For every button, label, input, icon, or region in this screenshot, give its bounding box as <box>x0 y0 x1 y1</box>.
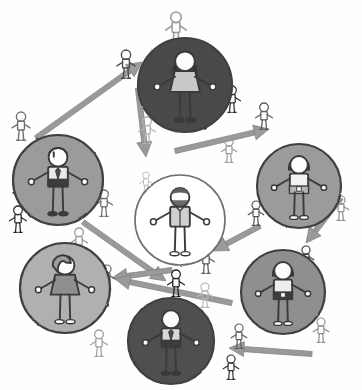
figure-leg-right <box>106 207 107 216</box>
figure-hand-right <box>305 291 310 296</box>
hub-node[interactable]: Hub D <box>257 144 341 228</box>
figure-leg-left <box>144 134 145 143</box>
figure-hand-left <box>154 84 160 90</box>
figure-head <box>274 262 292 280</box>
figure-hand-left <box>143 340 149 346</box>
figure-leg-left <box>254 217 255 225</box>
figure-leg-right <box>323 334 324 342</box>
figure-hand-right <box>82 179 88 185</box>
figure-leg-left <box>101 207 102 216</box>
figure-head <box>175 51 195 71</box>
figure-leg-left <box>60 295 61 320</box>
figure-leg-right <box>23 130 24 140</box>
figure-head <box>290 156 308 174</box>
figure-leg-right <box>287 298 288 321</box>
figure-hand-left <box>271 185 276 190</box>
figure-leg-left <box>339 212 340 220</box>
figure-hand-right <box>321 185 326 190</box>
figure-leg-right <box>149 134 150 143</box>
figure-leg-left <box>227 154 228 162</box>
figure-shoe-right <box>66 320 75 324</box>
figure-shoe-left <box>170 252 179 256</box>
figure-trouser-top <box>48 179 68 186</box>
diagram-canvas: Hub AHub BHub CHub DHub EHub FHub G Soci… <box>0 0 362 390</box>
figure-leg-right <box>70 295 71 320</box>
figure-leg-right <box>178 287 179 296</box>
figure-torso <box>170 71 200 92</box>
figure-hand-right <box>204 219 210 225</box>
figure-leg-right <box>208 264 209 273</box>
figure-hand-left <box>150 219 156 225</box>
figure-leg-right <box>175 347 176 371</box>
figure-shoe-right <box>59 212 68 216</box>
figure-leg-right <box>303 192 304 215</box>
figure-head <box>162 310 180 328</box>
figure-leg-left <box>229 103 230 112</box>
figure-leg-left <box>261 120 262 129</box>
figure-leg-right <box>343 212 344 220</box>
figure-shoe-left <box>290 215 298 219</box>
figure-shoe-right <box>172 371 181 375</box>
hub-node[interactable]: Hub C <box>135 175 225 265</box>
figure-leg-left <box>173 287 174 296</box>
figure-leg-left <box>15 223 16 232</box>
figure-shoe-left <box>175 118 184 122</box>
figure-shoe-left <box>55 320 64 324</box>
figure-hand-right <box>194 340 200 346</box>
figure-torso <box>51 275 80 295</box>
figure-shoe-right <box>284 321 292 325</box>
figure-belt-buckle <box>281 293 286 298</box>
hub-node[interactable]: Hub A <box>138 38 232 132</box>
figure-leg-left <box>180 92 181 118</box>
figure-leg-right <box>258 217 259 225</box>
hub-node[interactable]: Hub E <box>241 250 325 334</box>
figure-leg-right <box>128 68 129 78</box>
figure-leg-right <box>63 187 64 212</box>
hub-node[interactable]: Hub B <box>13 135 103 225</box>
figure-leg-left <box>18 130 19 140</box>
figure-hand-right <box>210 84 216 90</box>
figure-leg-left <box>96 347 97 356</box>
figure-leg-left <box>203 264 204 273</box>
figure-hand-left <box>28 179 34 185</box>
figure-shoe-left <box>161 371 170 375</box>
figure-hand-left <box>35 287 41 293</box>
figure-hand-left <box>255 291 260 296</box>
network-diagram-svg: Hub AHub BHub CHub DHub EHub FHub G <box>0 0 362 390</box>
figure-leg-right <box>266 120 267 129</box>
figure-leg-left <box>123 68 124 78</box>
figure-shoe-right <box>300 215 308 219</box>
figure-leg-right <box>101 347 102 356</box>
figure-leg-left <box>166 347 167 371</box>
figure-leg-left <box>319 334 320 342</box>
figure-shoe-right <box>186 118 195 122</box>
figure-leg-left <box>175 227 176 252</box>
figure-leg-left <box>229 371 230 379</box>
figure-shoe-right <box>181 252 190 256</box>
figure-leg-left <box>278 298 279 321</box>
figure-shoe-left <box>48 212 57 216</box>
figure-leg-right <box>185 227 186 252</box>
figure-leg-left <box>203 299 204 307</box>
figure-leg-left <box>53 187 54 212</box>
figure-leg-right <box>190 92 191 118</box>
figure-leg-right <box>234 103 235 112</box>
figure-leg-left <box>294 192 295 215</box>
hub-node[interactable]: Hub F <box>20 243 110 333</box>
figure-belt-buckle <box>297 187 302 192</box>
figure-leg-right <box>233 371 234 379</box>
figure-leg-right <box>207 299 208 307</box>
figure-trouser-top <box>162 340 181 347</box>
figure-hand-right <box>89 287 95 293</box>
figure-leg-right <box>20 223 21 232</box>
figure-leg-right <box>241 340 242 348</box>
figure-shoe-left <box>274 321 282 325</box>
figure-leg-right <box>231 154 232 162</box>
hub-node[interactable]: Hub G <box>128 298 214 384</box>
figure-leg-left <box>237 340 238 348</box>
